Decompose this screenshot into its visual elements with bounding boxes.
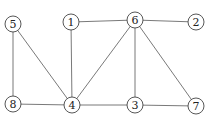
node-4: 4 xyxy=(64,97,80,113)
node-label: 1 xyxy=(68,16,75,29)
node-5: 5 xyxy=(5,16,21,32)
edge-8-4 xyxy=(13,104,72,105)
edge-1-6 xyxy=(71,20,135,22)
node-layer: 51628437 xyxy=(5,12,204,114)
node-6: 6 xyxy=(127,12,143,28)
edge-5-4 xyxy=(13,24,72,105)
node-label: 5 xyxy=(10,18,17,31)
node-label: 4 xyxy=(69,99,76,112)
node-8: 8 xyxy=(5,96,21,112)
edge-3-7 xyxy=(135,105,196,106)
graph-diagram: 51628437 xyxy=(0,0,208,120)
node-3: 3 xyxy=(127,97,143,113)
node-label: 2 xyxy=(193,16,200,29)
edge-6-2 xyxy=(135,20,196,22)
node-label: 7 xyxy=(193,100,200,113)
edge-layer xyxy=(13,20,196,106)
node-label: 3 xyxy=(132,99,139,112)
edge-1-4 xyxy=(71,22,72,105)
edge-6-7 xyxy=(135,20,196,106)
edge-6-4 xyxy=(72,20,135,105)
node-label: 6 xyxy=(132,14,139,27)
node-1: 1 xyxy=(63,14,79,30)
node-label: 8 xyxy=(10,98,17,111)
node-2: 2 xyxy=(188,14,204,30)
node-7: 7 xyxy=(188,98,204,114)
